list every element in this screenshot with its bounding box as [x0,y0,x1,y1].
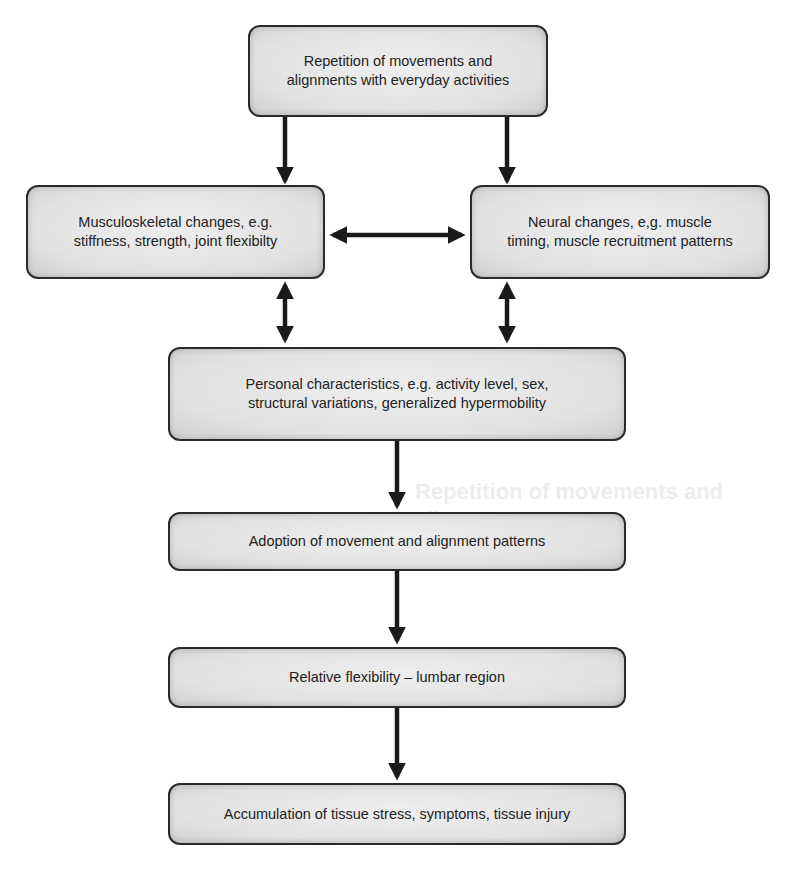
box-accumulation: Accumulation of tissue stress, symptoms,… [168,783,626,845]
box-personal: Personal characteristics, e.g. activity … [168,347,626,441]
box-adoption: Adoption of movement and alignment patte… [168,512,626,571]
box-text-line: Musculoskeletal changes, e.g. [66,213,286,232]
box-repetition: Repetition of movements and alignments w… [248,25,548,117]
box-text-line: Neural changes, e,g. muscle [499,213,741,232]
box-relative: Relative flexibility – lumbar region [168,647,626,708]
box-text-line: Personal characteristics, e.g. activity … [237,375,556,394]
box-neural: Neural changes, e,g. muscle timing, musc… [470,185,770,279]
box-text-line: stiffness, strength, joint flexibilty [66,232,286,251]
box-text-line: Repetition of movements and [279,52,517,71]
box-text-line: Adoption of movement and alignment patte… [241,532,554,551]
box-text-line: timing, muscle recruitment patterns [499,232,741,251]
box-text-line: structural variations, generalized hyper… [237,394,556,413]
box-text-line: Relative flexibility – lumbar region [281,668,513,687]
box-musculoskeletal: Musculoskeletal changes, e.g. stiffness,… [26,185,325,279]
box-text-line: alignments with everyday activities [279,71,517,90]
box-text-line: Accumulation of tissue stress, symptoms,… [216,805,579,824]
